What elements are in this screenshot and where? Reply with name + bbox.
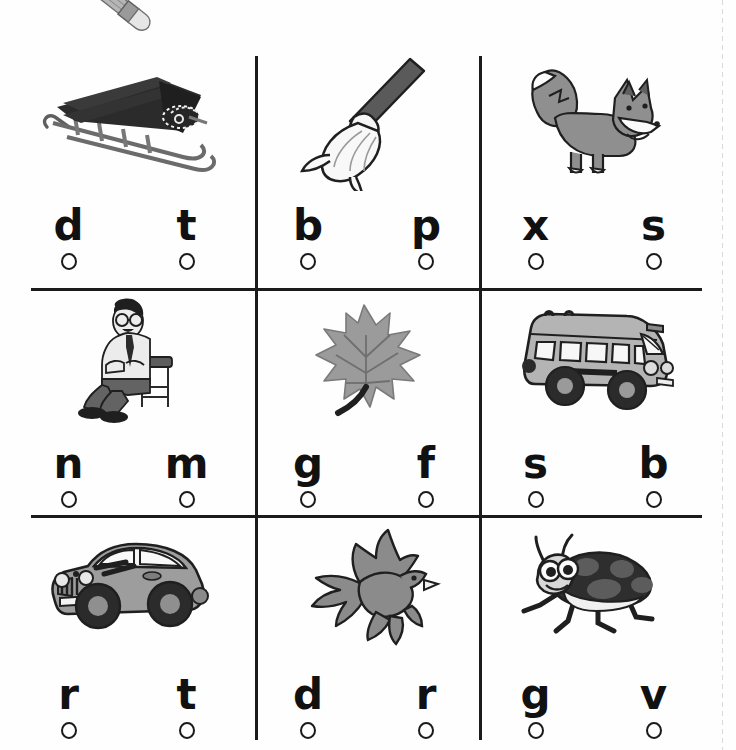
worksheet-cell-broom: b p xyxy=(255,40,479,288)
choice-option[interactable]: x xyxy=(516,202,556,270)
picture-man-sitting-on-chair xyxy=(0,290,255,430)
choice-letter: g xyxy=(293,440,323,484)
choice-option[interactable]: f xyxy=(406,440,446,508)
choice-row: r t xyxy=(0,671,255,739)
choice-row: n m xyxy=(0,440,255,508)
choice-letter: p xyxy=(411,202,441,246)
answer-bubble[interactable] xyxy=(418,253,434,270)
answer-bubble[interactable] xyxy=(646,491,662,508)
fox-icon xyxy=(515,56,675,186)
answer-bubble[interactable] xyxy=(528,253,544,270)
choice-letter: t xyxy=(176,202,196,246)
answer-bubble[interactable] xyxy=(61,722,77,739)
choice-letter: r xyxy=(416,671,437,715)
bus-icon xyxy=(507,300,682,420)
answer-bubble[interactable] xyxy=(300,722,316,739)
worksheet-cell-ladybug: g v xyxy=(479,515,710,747)
choice-row: b p xyxy=(255,202,479,270)
choice-option[interactable]: t xyxy=(167,202,207,270)
picture-leaf xyxy=(255,290,479,430)
choice-letter: m xyxy=(165,440,209,484)
choice-option[interactable]: m xyxy=(167,440,207,508)
worksheet-cell-fox: x s xyxy=(479,40,710,288)
choice-letter: b xyxy=(638,440,668,484)
choice-option[interactable]: d xyxy=(49,202,89,270)
worksheet-cell-car: r t xyxy=(0,515,255,747)
choice-row: g f xyxy=(255,440,479,508)
bird-icon xyxy=(292,524,442,654)
choice-letter: s xyxy=(523,440,548,484)
choice-letter: g xyxy=(520,671,550,715)
choice-option[interactable]: t xyxy=(167,671,207,739)
choice-option[interactable]: v xyxy=(634,671,674,739)
broom-icon xyxy=(292,51,442,191)
answer-bubble[interactable] xyxy=(300,491,316,508)
answer-bubble[interactable] xyxy=(300,253,316,270)
choice-letter: b xyxy=(293,202,323,246)
choice-option[interactable]: b xyxy=(634,440,674,508)
answer-bubble[interactable] xyxy=(61,253,77,270)
answer-bubble[interactable] xyxy=(646,722,662,739)
picture-bus xyxy=(479,290,710,430)
picture-car xyxy=(0,519,255,659)
choice-option[interactable]: g xyxy=(516,671,556,739)
choice-option[interactable]: s xyxy=(634,202,674,270)
choice-option[interactable]: r xyxy=(49,671,89,739)
page-edge-artifact xyxy=(722,0,723,750)
worksheet-cell-sled: d t xyxy=(0,40,255,288)
choice-option[interactable]: p xyxy=(406,202,446,270)
picture-bird xyxy=(255,519,479,659)
choice-letter: x xyxy=(522,202,549,246)
answer-bubble[interactable] xyxy=(646,253,662,270)
choice-row: x s xyxy=(479,202,710,270)
choice-letter: v xyxy=(640,671,667,715)
choice-letter: d xyxy=(293,671,323,715)
picture-fox xyxy=(479,46,710,196)
answer-bubble[interactable] xyxy=(418,722,434,739)
worksheet-cell-bird: d r xyxy=(255,515,479,747)
answer-bubble[interactable] xyxy=(528,722,544,739)
choice-option[interactable]: s xyxy=(516,440,556,508)
answer-bubble[interactable] xyxy=(179,722,195,739)
answer-bubble[interactable] xyxy=(179,253,195,270)
answer-bubble[interactable] xyxy=(179,491,195,508)
picture-broom xyxy=(255,46,479,196)
sled-icon xyxy=(33,61,223,181)
answer-bubble[interactable] xyxy=(528,491,544,508)
choice-row: g v xyxy=(479,671,710,739)
answer-bubble[interactable] xyxy=(418,491,434,508)
car-icon xyxy=(40,534,215,644)
worksheet-grid: d t xyxy=(0,40,710,750)
picture-ladybug xyxy=(479,519,710,659)
choice-letter: r xyxy=(58,671,79,715)
choice-row: s b xyxy=(479,440,710,508)
choice-option[interactable]: g xyxy=(288,440,328,508)
choice-option[interactable]: d xyxy=(288,671,328,739)
ladybug-icon xyxy=(512,529,677,649)
choice-letter: d xyxy=(53,202,83,246)
worksheet-cell-bus: s b xyxy=(479,288,710,515)
worksheet-cell-leaf: g f xyxy=(255,288,479,515)
man-on-chair-icon xyxy=(68,295,188,425)
choice-letter: t xyxy=(176,671,196,715)
choice-letter: s xyxy=(641,202,666,246)
leaf-icon xyxy=(302,295,432,425)
worksheet-cell-man-on-chair: n m xyxy=(0,288,255,515)
choice-row: d r xyxy=(255,671,479,739)
choice-row: d t xyxy=(0,202,255,270)
picture-sled xyxy=(0,46,255,196)
choice-option[interactable]: b xyxy=(288,202,328,270)
answer-bubble[interactable] xyxy=(61,491,77,508)
choice-letter: f xyxy=(417,440,435,484)
choice-option[interactable]: r xyxy=(406,671,446,739)
choice-option[interactable]: n xyxy=(49,440,89,508)
choice-letter: n xyxy=(54,440,84,484)
